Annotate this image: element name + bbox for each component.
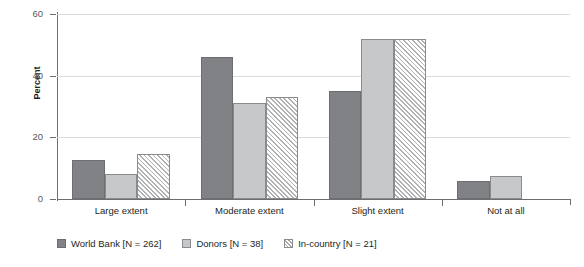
legend-item[interactable]: World Bank [N = 262]	[57, 239, 161, 249]
y-axis-tick	[50, 199, 56, 200]
legend-swatch-icon	[284, 239, 293, 248]
bar	[329, 91, 362, 199]
y-axis-tick	[50, 76, 56, 77]
bar	[137, 154, 170, 199]
x-axis-category-label: Slight extent	[314, 206, 442, 216]
gridline	[57, 76, 570, 77]
x-axis-tick	[185, 200, 186, 206]
gridline	[57, 14, 570, 15]
legend-item[interactable]: In-country [N = 21]	[284, 239, 376, 249]
bar	[457, 181, 490, 200]
legend-item[interactable]: Donors [N = 38]	[182, 239, 263, 249]
y-axis-tick	[50, 14, 56, 15]
chart-legend: World Bank [N = 262]Donors [N = 38]In-co…	[57, 239, 377, 249]
bar	[105, 174, 138, 199]
x-axis-category-label: Not at all	[442, 206, 570, 216]
bar	[201, 57, 234, 199]
legend-label: World Bank [N = 262]	[71, 239, 161, 249]
legend-label: In-country [N = 21]	[298, 239, 376, 249]
plot-area	[57, 14, 570, 199]
gridline	[57, 137, 570, 138]
y-axis-tick-label: 20	[9, 132, 43, 142]
x-axis-category-label: Large extent	[57, 206, 185, 216]
bar-chart: Percent World Bank [N = 262]Donors [N = …	[0, 0, 584, 267]
bar	[361, 39, 394, 199]
legend-swatch-icon	[57, 239, 66, 248]
legend-label: Donors [N = 38]	[196, 239, 263, 249]
y-axis-title: Percent	[32, 48, 42, 118]
bar	[266, 97, 299, 199]
bar	[394, 39, 427, 199]
legend-swatch-icon	[182, 239, 191, 248]
y-axis-tick	[50, 137, 56, 138]
x-axis-tick	[442, 200, 443, 206]
x-axis-right-cap	[570, 199, 571, 205]
bar	[72, 160, 105, 199]
y-axis-tick-label: 40	[9, 71, 43, 81]
y-axis-tick-label: 60	[9, 9, 43, 19]
bar	[233, 103, 266, 199]
bar	[490, 176, 523, 199]
x-axis-category-label: Moderate extent	[185, 206, 313, 216]
y-axis-tick-label: 0	[9, 194, 43, 204]
x-axis-tick	[314, 200, 315, 206]
